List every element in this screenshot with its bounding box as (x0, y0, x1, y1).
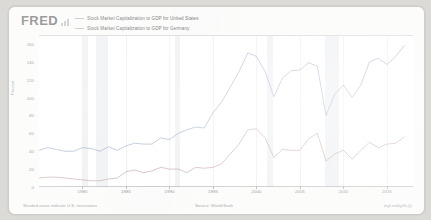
x-axis-tick-label: 1985 (121, 189, 131, 194)
fred-chart-card: FRED Stock Market Capitalization to GDP … (8, 6, 425, 215)
x-axis-tick-label: 2010 (339, 189, 349, 194)
chart-legend: Stock Market Capitalization to GDP for U… (75, 14, 199, 34)
series-line (39, 46, 404, 152)
y-axis-labels: 020406080100120140160 (9, 35, 37, 187)
legend-color-swatch (75, 28, 84, 29)
plot-area[interactable] (39, 35, 413, 187)
legend-entry[interactable]: Stock Market Capitalization to GDP for G… (75, 24, 199, 32)
y-axis-tick-label: 80 (29, 113, 34, 118)
x-axis-tick-label: 1995 (208, 189, 218, 194)
chart-footer: Shaded areas indicate U.S. recessions So… (9, 199, 424, 214)
legend-label: Stock Market Capitalization to GDP for U… (87, 15, 199, 23)
legend-color-swatch (75, 18, 84, 19)
x-axis-tick-label: 2015 (382, 189, 392, 194)
source-note: Source: World Bank (195, 203, 233, 208)
y-axis-tick-label: 0 (32, 185, 34, 190)
y-axis-tick-label: 40 (29, 149, 34, 154)
legend-entry[interactable]: Stock Market Capitalization to GDP for U… (75, 14, 199, 22)
series-lines (39, 35, 413, 187)
screenshot-frame: FRED Stock Market Capitalization to GDP … (0, 0, 431, 220)
legend-label: Stock Market Capitalization to GDP for G… (87, 25, 189, 33)
y-axis-tick-label: 120 (27, 77, 34, 82)
y-axis-tick-label: 140 (27, 59, 34, 64)
x-axis-tick-label: 1990 (165, 189, 175, 194)
x-axis-labels: 19801985199019952000200520102015 (39, 189, 413, 199)
recession-note: Shaded areas indicate U.S. recessions (23, 203, 97, 208)
series-line (39, 129, 404, 181)
y-axis-tick-label: 100 (27, 95, 34, 100)
fred-logo[interactable]: FRED (21, 13, 58, 28)
x-axis-tick-label: 1980 (78, 189, 88, 194)
y-axis-tick-label: 60 (29, 131, 34, 136)
x-axis-tick-label: 2000 (252, 189, 262, 194)
bar-chart-icon (61, 19, 70, 26)
chart-header: FRED Stock Market Capitalization to GDP … (9, 7, 424, 33)
permalink[interactable]: myf.red/g/hLjQ (384, 203, 412, 208)
y-axis-tick-label: 160 (27, 41, 34, 46)
y-axis-tick-label: 20 (29, 167, 34, 172)
x-axis-tick-label: 2005 (295, 189, 305, 194)
